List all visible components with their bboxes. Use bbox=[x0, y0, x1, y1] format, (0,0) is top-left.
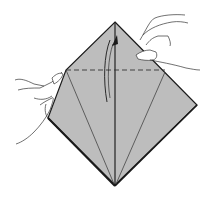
paper-diamond bbox=[48, 22, 197, 185]
origami-diagram bbox=[0, 0, 215, 198]
